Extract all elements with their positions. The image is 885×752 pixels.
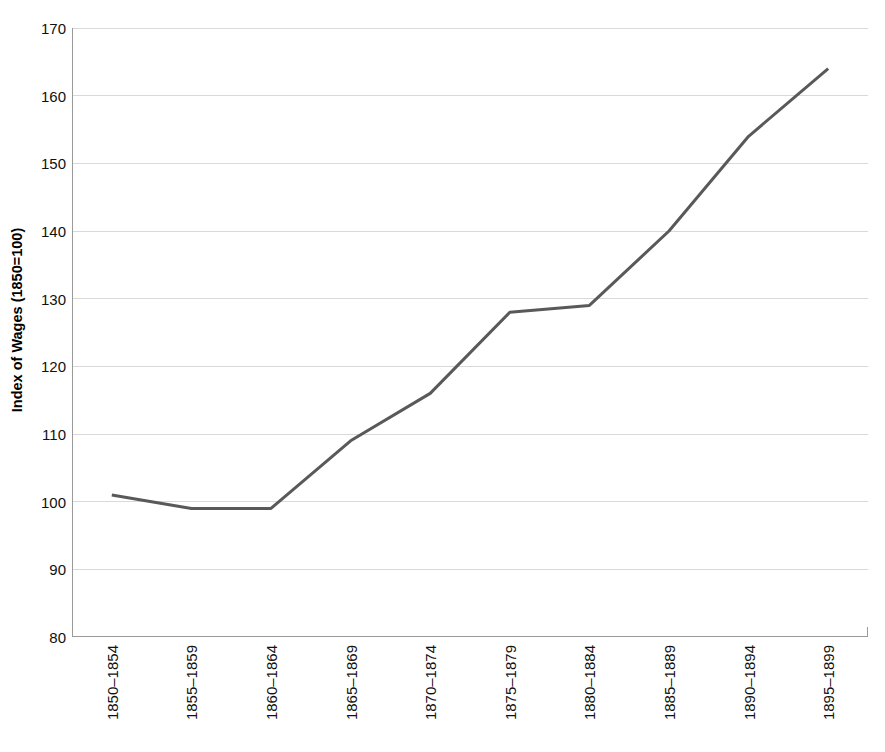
x-tick-label-text: 1850–1854 bbox=[103, 645, 120, 720]
y-axis-tick-labels: 8090100110120130140150160170 bbox=[30, 0, 66, 640]
x-tick-label-text: 1875–1879 bbox=[501, 645, 518, 720]
y-tick-label: 100 bbox=[30, 493, 66, 510]
plot-area bbox=[72, 28, 868, 637]
y-tick-label: 120 bbox=[30, 358, 66, 375]
x-tick-label-text: 1895–1899 bbox=[820, 645, 837, 720]
y-tick-label: 80 bbox=[30, 629, 66, 646]
y-axis-title-text: Index of Wages (1850=100) bbox=[9, 228, 25, 412]
y-tick-label: 130 bbox=[30, 290, 66, 307]
y-tick-label: 150 bbox=[30, 155, 66, 172]
data-series-line bbox=[112, 69, 828, 509]
x-tick-label-text: 1865–1869 bbox=[342, 645, 359, 720]
x-tick-label-text: 1890–1894 bbox=[740, 645, 757, 720]
x-tick-label-text: 1885–1889 bbox=[661, 645, 678, 720]
x-tick-label-text: 1880–1884 bbox=[581, 645, 598, 720]
plot-svg bbox=[72, 28, 868, 637]
y-tick-label: 90 bbox=[30, 561, 66, 578]
axes bbox=[72, 28, 868, 637]
wage-index-line-chart: Index of Wages (1850=100) 80901001101201… bbox=[0, 0, 885, 752]
y-axis-title: Index of Wages (1850=100) bbox=[0, 0, 34, 640]
y-tick-label: 140 bbox=[30, 223, 66, 240]
x-tick-label-text: 1870–1874 bbox=[422, 645, 439, 720]
y-tick-label: 160 bbox=[30, 87, 66, 104]
x-tick-label-text: 1855–1859 bbox=[183, 645, 200, 720]
x-tick-label-text: 1860–1864 bbox=[263, 645, 280, 720]
y-tick-label: 170 bbox=[30, 20, 66, 37]
gridlines bbox=[72, 28, 868, 637]
y-tick-label: 110 bbox=[30, 426, 66, 443]
x-axis-tick-labels: 1850–18541855–18591860–18641865–18691870… bbox=[72, 637, 868, 752]
